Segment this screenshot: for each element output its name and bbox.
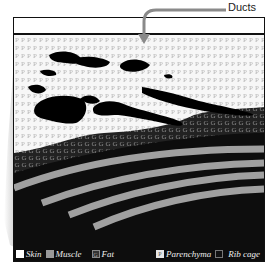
legend: Skin Muscle G Fat P Parenchyma Rib cage (16, 248, 264, 260)
legend-label: Fat (102, 249, 115, 259)
tissue-illustration: P G (14, 35, 264, 262)
legend-item-rib-cage: Rib cage (215, 249, 260, 259)
breast-cross-section-figure: P G (13, 17, 265, 262)
fat-swatch-icon: G (92, 250, 100, 258)
legend-label: Rib cage (228, 249, 260, 259)
legend-item-fat: G Fat (92, 249, 115, 259)
legend-label: Parenchyma (166, 249, 211, 259)
rib-cage-swatch-icon (215, 250, 223, 258)
legend-label: Muscle (56, 249, 82, 259)
ducts-label: Ducts (228, 1, 256, 13)
legend-item-parenchyma: P Parenchyma (156, 249, 211, 259)
parenchyma-swatch-icon: P (156, 250, 164, 258)
legend-item-skin: Skin (16, 249, 42, 259)
legend-item-muscle: Muscle (46, 249, 82, 259)
muscle-swatch-icon (46, 250, 54, 258)
skin-swatch-icon (16, 250, 24, 258)
ducts-arrow-icon (136, 4, 228, 46)
legend-label: Skin (26, 249, 42, 259)
